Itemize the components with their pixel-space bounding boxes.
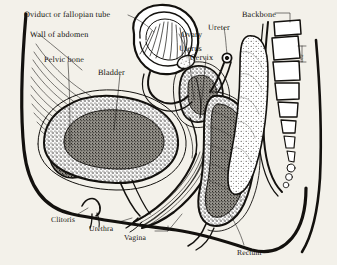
label-rectum: Rectum [237,249,262,257]
anatomical-figure: Oviduct or fallopian tube Wall of abdome… [0,0,337,265]
anatomy-illustration [0,0,337,265]
label-pelvic-bone: Pelvic bone [44,56,84,64]
label-bladder: Bladder [98,69,125,77]
label-ovary: Ovary [181,31,202,39]
label-clitoris: Clitoris [51,216,75,224]
label-cervix: Cervix [190,54,213,62]
label-ureter: Ureter [208,24,230,32]
label-vagina: Vagina [124,234,146,242]
label-backbone: Backbone [242,11,276,19]
label-wall-abdomen: Wall of abdomen [30,31,88,39]
label-oviduct: Oviduct or fallopian tube [24,11,110,19]
label-disc: Disc [300,54,304,62]
bladder-shape [38,90,186,216]
label-uterus: Uterus [179,45,202,53]
label-urethra: Urethra [89,225,113,233]
